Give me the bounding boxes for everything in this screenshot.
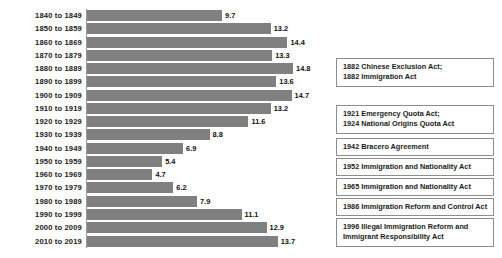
annotation-box: 1996 Illegal Immigration Reform andImmig…	[336, 218, 494, 247]
bar-with-value: 11.1	[87, 209, 258, 220]
bar-with-value: 6.9	[87, 143, 196, 154]
annotation-line: 1952 Immigration and Nationality Act	[343, 162, 488, 172]
bar-value-label: 13.6	[279, 77, 293, 86]
bar	[87, 116, 248, 127]
bar	[87, 156, 162, 167]
category-label: 1980 to 1989	[0, 195, 82, 208]
category-label: 1930 to 1939	[0, 128, 82, 141]
annotation-line: 1942 Bracero Agreement	[343, 142, 488, 152]
bar-value-label: 12.9	[270, 223, 284, 232]
annotation-box: 1921 Emergency Quota Act;1924 National O…	[336, 105, 494, 134]
bar	[87, 222, 267, 233]
annotation-line: 1996 Illegal Immigration Reform and	[343, 222, 488, 232]
bar	[87, 63, 293, 74]
category-label: 2000 to 2009	[0, 221, 82, 234]
bar-with-value: 12.9	[87, 222, 284, 233]
annotation-box: 1942 Bracero Agreement	[336, 138, 494, 156]
bar	[87, 76, 276, 87]
bar	[87, 209, 242, 220]
bar-with-value: 14.7	[87, 90, 309, 101]
bar	[87, 236, 278, 247]
category-label: 1870 to 1879	[0, 49, 82, 62]
bar-value-label: 14.4	[290, 38, 304, 47]
bar-value-label: 9.7	[225, 11, 235, 20]
bar-with-value: 13.3	[87, 50, 290, 61]
bar-with-value: 11.6	[87, 116, 265, 127]
annotation-line: 1924 National Origins Quota Act	[343, 119, 488, 129]
category-label: 1950 to 1959	[0, 155, 82, 168]
bar-with-value: 7.9	[87, 196, 210, 207]
bar	[87, 23, 271, 34]
category-label: 1880 to 1889	[0, 62, 82, 75]
category-label: 1920 to 1929	[0, 115, 82, 128]
annotation-callouts: 1882 Chinese Exclusion Act;1882 Immigrat…	[336, 0, 502, 258]
category-label: 1940 to 1949	[0, 142, 82, 155]
category-label: 1840 to 1849	[0, 9, 82, 22]
bar-with-value: 14.4	[87, 37, 305, 48]
bar-with-value: 13.2	[87, 103, 288, 114]
category-label: 1910 to 1919	[0, 102, 82, 115]
bar-value-label: 6.9	[186, 144, 196, 153]
bar-value-label: 4.7	[155, 170, 165, 179]
annotation-box: 1882 Chinese Exclusion Act;1882 Immigrat…	[336, 58, 494, 87]
bar-value-label: 13.7	[281, 237, 295, 246]
category-label: 1900 to 1909	[0, 89, 82, 102]
bar-value-label: 5.4	[165, 157, 175, 166]
bar-value-label: 6.2	[176, 183, 186, 192]
annotation-line: 1986 Immigration Reform and Control Act	[343, 202, 488, 212]
category-label: 1850 to 1859	[0, 22, 82, 35]
bar-chart: 1840 to 18499.71850 to 185913.21860 to 1…	[0, 0, 502, 258]
annotation-line: 1965 Immigration and Nationality Act	[343, 182, 488, 192]
bar	[87, 169, 152, 180]
category-label: 1970 to 1979	[0, 181, 82, 194]
bar-value-label: 11.1	[245, 210, 259, 219]
annotation-box: 1965 Immigration and Nationality Act	[336, 178, 494, 196]
annotation-line: 1921 Emergency Quota Act;	[343, 109, 488, 119]
category-label: 1860 to 1869	[0, 36, 82, 49]
bar	[87, 50, 272, 61]
bar-with-value: 5.4	[87, 156, 175, 167]
annotation-box: 1986 Immigration Reform and Control Act	[336, 198, 494, 216]
bar	[87, 103, 271, 114]
bar-with-value: 13.7	[87, 236, 295, 247]
bar-with-value: 9.7	[87, 10, 235, 21]
bar-value-label: 14.8	[296, 64, 310, 73]
bar-value-label: 13.2	[274, 104, 288, 113]
bar-value-label: 14.7	[295, 91, 309, 100]
annotation-line: Immigrant Responsibility Act	[343, 232, 488, 242]
category-label: 2010 to 2019	[0, 235, 82, 248]
bar	[87, 129, 210, 140]
bar	[87, 37, 287, 48]
bar-value-label: 13.3	[275, 51, 289, 60]
category-label: 1960 to 1969	[0, 168, 82, 181]
bar	[87, 90, 292, 101]
annotation-box: 1952 Immigration and Nationality Act	[336, 158, 494, 176]
bar	[87, 182, 173, 193]
annotation-line: 1882 Immigration Act	[343, 72, 488, 82]
annotation-line: 1882 Chinese Exclusion Act;	[343, 62, 488, 72]
bar-value-label: 11.6	[251, 117, 265, 126]
bar	[87, 143, 183, 154]
category-label: 1990 to 1999	[0, 208, 82, 221]
bar-with-value: 13.6	[87, 76, 294, 87]
bar-value-label: 13.2	[274, 24, 288, 33]
bar-with-value: 13.2	[87, 23, 288, 34]
bar-value-label: 7.9	[200, 197, 210, 206]
category-label: 1890 to 1899	[0, 75, 82, 88]
bar	[87, 196, 197, 207]
bar-value-label: 8.8	[213, 130, 223, 139]
bar-with-value: 8.8	[87, 129, 223, 140]
bar	[87, 10, 222, 21]
bar-with-value: 14.8	[87, 63, 310, 74]
bar-with-value: 4.7	[87, 169, 166, 180]
bar-with-value: 6.2	[87, 182, 187, 193]
